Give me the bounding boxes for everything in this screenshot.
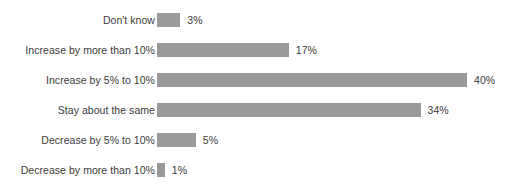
chart-row: Don't know 3% [0, 13, 516, 27]
bar [157, 103, 421, 117]
bar [157, 163, 165, 177]
value-label: 34% [428, 103, 449, 117]
value-label: 40% [474, 73, 495, 87]
chart-row: Decrease by more than 10% 1% [0, 163, 516, 177]
bar [157, 43, 289, 57]
bar [157, 73, 467, 87]
category-label: Increase by 5% to 10% [0, 73, 155, 87]
value-label: 5% [203, 133, 218, 147]
value-label: 3% [187, 13, 202, 27]
bar-zone: 5% [157, 133, 516, 147]
bar-zone: 1% [157, 163, 516, 177]
bar-zone: 34% [157, 103, 516, 117]
bar [157, 13, 180, 27]
value-label: 1% [172, 163, 187, 177]
category-label: Increase by more than 10% [0, 43, 155, 57]
chart-row: Increase by more than 10% 17% [0, 43, 516, 57]
chart-row: Stay about the same 34% [0, 103, 516, 117]
bar-zone: 3% [157, 13, 516, 27]
category-label: Decrease by more than 10% [0, 163, 155, 177]
bar [157, 133, 196, 147]
bar-zone: 17% [157, 43, 516, 57]
chart-row: Decrease by 5% to 10% 5% [0, 133, 516, 147]
category-label: Decrease by 5% to 10% [0, 133, 155, 147]
category-label: Don't know [0, 13, 155, 27]
horizontal-bar-chart: Don't know 3% Increase by more than 10% … [0, 0, 516, 191]
chart-row: Increase by 5% to 10% 40% [0, 73, 516, 87]
bar-zone: 40% [157, 73, 516, 87]
category-label: Stay about the same [0, 103, 155, 117]
value-label: 17% [296, 43, 317, 57]
